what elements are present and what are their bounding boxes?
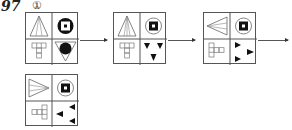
three-triangles-right-icon <box>235 42 254 62</box>
striped-triangle-left-icon <box>207 17 227 35</box>
sequence-arrow-3 <box>258 40 288 41</box>
figure-box-4 <box>25 74 78 126</box>
striped-triangle-up-icon <box>118 16 136 36</box>
sequence-arrow-2 <box>168 40 195 41</box>
black-ring-square-icon <box>58 18 74 34</box>
option-marker: ① <box>32 0 42 12</box>
cross-grid-right-icon <box>209 43 224 57</box>
three-triangles-down-icon <box>144 43 163 61</box>
figure-box-1 <box>25 12 78 64</box>
striped-triangle-up-icon <box>30 16 48 36</box>
cross-grid-left-icon <box>32 105 47 119</box>
circle-black-square-icon <box>146 18 162 34</box>
figure-box-2 <box>113 12 166 64</box>
striped-triangle-right-icon <box>29 79 49 97</box>
sequence-arrow-1 <box>80 40 107 41</box>
cross-grid-icon <box>120 43 134 58</box>
three-triangles-left-icon <box>56 104 75 124</box>
circle-black-square-icon <box>58 80 74 96</box>
figure-box-3 <box>203 12 256 64</box>
question-number: 97 <box>1 0 20 14</box>
cross-grid-icon <box>32 43 46 58</box>
circle-black-square-icon <box>236 18 252 34</box>
triangle-with-circle-icon <box>55 42 76 61</box>
